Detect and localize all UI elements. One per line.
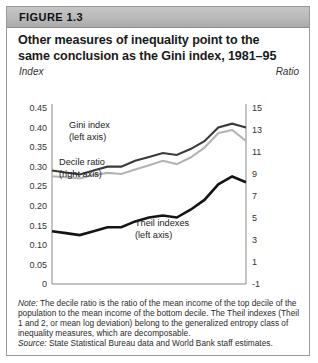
line-chart: 0.450.400.350.300.250.200.150.100.050 15…: [7, 80, 309, 292]
y-axis-left-ticks: 0.450.400.350.300.250.200.150.100.050: [29, 103, 47, 289]
chart-plot-area: 0.450.400.350.300.250.200.150.100.050 15…: [7, 80, 309, 292]
figure-label: FIGURE 1.3: [19, 11, 83, 23]
y-tick-right-label: 7: [252, 191, 257, 201]
y-tick-left-label: 0.40: [29, 123, 47, 133]
y-tick-right-label: 9: [252, 169, 257, 179]
annotation-axis-theil-indexes: (left axis): [135, 230, 172, 240]
y-tick-right-label: 1: [252, 257, 257, 267]
note-text: The decile ratio is the ratio of the mea…: [18, 298, 299, 338]
x-tick-label: 1987: [125, 290, 145, 292]
annotation-decile-ratio: Decile ratio: [59, 157, 105, 167]
y-tick-right-label: -1: [252, 279, 260, 289]
note-paragraph: Note: The decile ratio is the ratio of t…: [18, 299, 301, 339]
figure-title-line-2: same conclusion as the Gini index, 1981–…: [18, 49, 296, 65]
axis-label-right: Ratio: [276, 66, 299, 77]
y-axis-right-ticks: 15131197531-1: [252, 103, 262, 289]
y-tick-left-label: 0.35: [29, 142, 47, 152]
x-tick-label: 1983: [70, 290, 90, 292]
x-tick-label: 1985: [97, 290, 117, 292]
y-tick-left-label: 0.20: [29, 201, 47, 211]
x-tick-label: 1981: [42, 290, 62, 292]
y-tick-left-label: 0.10: [29, 240, 47, 250]
annotation-axis-decile-ratio: (right axis): [59, 169, 102, 179]
figure-title-line-1: Other measures of inequality point to th…: [18, 33, 296, 49]
axis-label-left: Index: [19, 66, 43, 77]
y-tick-right-label: 3: [252, 235, 257, 245]
y-tick-left-label: 0.30: [29, 162, 47, 172]
figure-header-band: FIGURE 1.3: [7, 7, 309, 28]
y-tick-left-label: 0.25: [29, 181, 47, 191]
source-paragraph: Source: State Statistical Bureau data an…: [18, 339, 301, 349]
figure-title: Other measures of inequality point to th…: [18, 33, 296, 64]
y-tick-left-label: 0: [42, 279, 47, 289]
y-tick-left-label: 0.15: [29, 221, 47, 231]
annotation-axis-gini-index: (left axis): [69, 132, 106, 142]
annotation-gini-index: Gini index: [69, 120, 110, 130]
annotation-theil-indexes: Theil indexes: [135, 218, 190, 228]
x-tick-label: 1991: [181, 290, 201, 292]
x-tick-label: 1989: [153, 290, 173, 292]
y-tick-right-label: 5: [252, 213, 257, 223]
figure-card: FIGURE 1.3 Other measures of inequality …: [6, 6, 310, 356]
y-tick-right-label: 15: [252, 103, 262, 113]
source-label: Source:: [18, 338, 47, 348]
note-label: Note:: [18, 298, 38, 308]
x-tick-label: 1995: [236, 290, 256, 292]
x-tick-label: 1993: [208, 290, 228, 292]
series-annotations: Gini index(left axis)Decile ratio(right …: [59, 120, 190, 240]
figure-notes: Note: The decile ratio is the ratio of t…: [18, 299, 301, 349]
y-tick-right-label: 11: [252, 147, 261, 157]
y-tick-left-label: 0.05: [29, 260, 47, 270]
y-tick-left-label: 0.45: [29, 103, 47, 113]
source-text: State Statistical Bureau data and World …: [47, 338, 273, 348]
x-axis-ticks: 19811983198519871989199119931995: [42, 290, 256, 292]
y-tick-right-label: 13: [252, 125, 262, 135]
